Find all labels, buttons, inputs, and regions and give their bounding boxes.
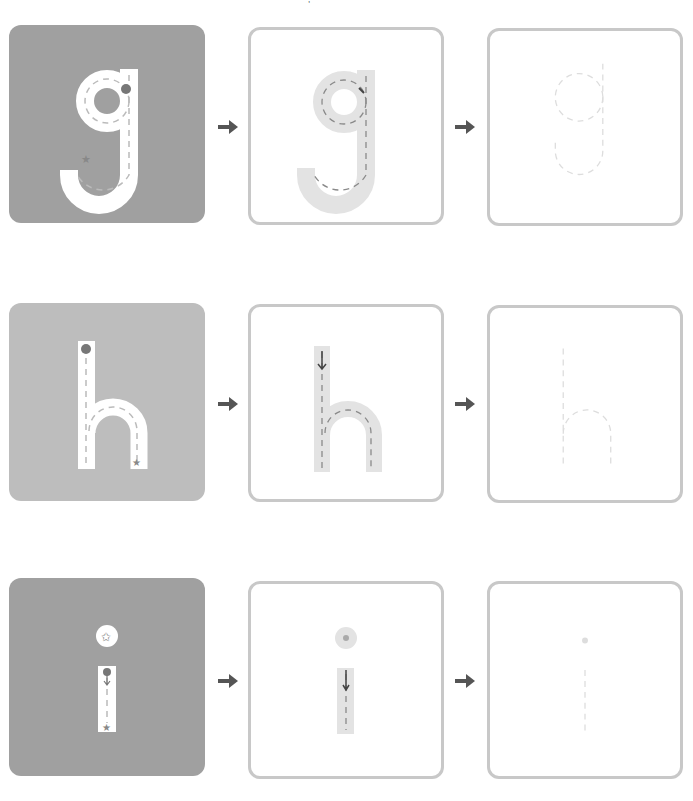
star-icon: ✩	[101, 630, 111, 644]
card-g-model: ★	[9, 25, 205, 223]
arrow-right-icon	[218, 119, 240, 135]
arrow-right-icon	[455, 673, 477, 689]
card-h-dotted	[487, 305, 683, 503]
arrow-right-icon	[455, 396, 477, 412]
card-i-shaded	[248, 581, 444, 779]
star-end-icon: ★	[102, 722, 111, 733]
card-i-dotted	[487, 581, 683, 779]
arrow-right-icon	[218, 673, 240, 689]
card-h-model: ★	[9, 303, 205, 501]
letter-g-shaded-glyph	[251, 30, 441, 222]
letter-i-model-glyph: ✩ ★	[9, 578, 205, 776]
card-g-shaded	[248, 27, 444, 225]
dot-start-icon	[103, 668, 111, 676]
letter-h-shaded-glyph	[251, 307, 441, 499]
card-i-model: ✩ ★	[9, 578, 205, 776]
page-top-mark: ,	[308, 0, 312, 3]
star-end-icon: ★	[81, 153, 91, 165]
card-h-shaded	[248, 304, 444, 502]
letter-h-dotted-glyph	[490, 308, 680, 500]
letter-g-model-glyph: ★	[9, 25, 205, 223]
dot-start-icon	[121, 84, 131, 94]
arrow-right-icon	[455, 119, 477, 135]
letter-i-shaded-glyph	[251, 584, 441, 776]
letter-i-dotted-glyph	[490, 584, 680, 776]
dot-start-icon	[81, 344, 91, 354]
letter-g-dotted-glyph	[490, 31, 680, 223]
letter-h-model-glyph: ★	[9, 303, 205, 501]
arrow-right-icon	[218, 396, 240, 412]
card-g-dotted	[487, 28, 683, 226]
star-end-icon: ★	[132, 457, 141, 468]
